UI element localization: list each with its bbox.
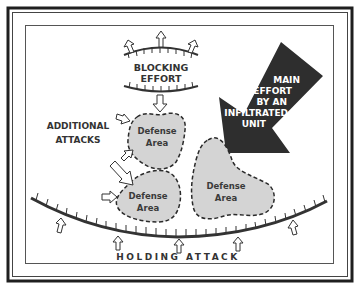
up-right-arrow-icon — [188, 40, 198, 53]
down-arrow-icon — [153, 95, 167, 112]
blocking-upper-arc — [124, 48, 198, 56]
up-arrow-icon — [56, 218, 66, 233]
right-arrow-icon — [116, 114, 130, 124]
main-effort-line1: MAIN — [273, 75, 300, 85]
blocking-effort: BLOCKING EFFORT — [124, 31, 198, 112]
main-effort-line4: INFILTRATED — [224, 108, 288, 118]
defense-area-label-line2: Area — [215, 193, 238, 203]
holding-attack-label: HOLDING ATTACK — [116, 252, 239, 262]
defense-area-label-line1: Defense — [206, 181, 245, 191]
up-arrow-icon — [174, 239, 184, 253]
right-arrow-icon — [102, 191, 117, 203]
up-right-arrow-icon — [121, 150, 133, 161]
up-arrow-icon — [288, 220, 298, 235]
defense-area-label-line1: Defense — [137, 126, 176, 136]
additional-attacks-line1: ADDITIONAL — [47, 121, 110, 131]
defense-area-label-line1: Defense — [128, 191, 167, 201]
up-left-arrow-icon — [124, 40, 134, 53]
blocking-label-line2: EFFORT — [141, 73, 182, 84]
up-arrow-icon — [113, 236, 123, 250]
up-arrow-icon — [156, 31, 166, 47]
main-effort-arrow: MAIN EFFORT BY AN INFILTRATED UNIT — [219, 42, 323, 153]
main-effort-line2: EFFORT — [253, 86, 293, 96]
defense-area-label-line2: Area — [146, 138, 169, 148]
additional-attacks-line2: ATTACKS — [55, 135, 100, 145]
up-arrow-icon — [233, 237, 243, 251]
blocking-label-line1: BLOCKING — [134, 62, 189, 73]
defense-area-upper-left: Defense Area — [128, 113, 185, 169]
blocking-upper-ticks — [128, 47, 192, 58]
main-effort-line3: BY AN — [256, 97, 287, 107]
main-effort-line5: UNIT — [242, 119, 267, 129]
defense-area-label-line2: Area — [137, 203, 160, 213]
tactical-diagram: BLOCKING EFFORT MAIN EFFORT BY AN INFILT… — [0, 0, 359, 287]
large-diagonal-arrow-icon — [110, 161, 133, 185]
